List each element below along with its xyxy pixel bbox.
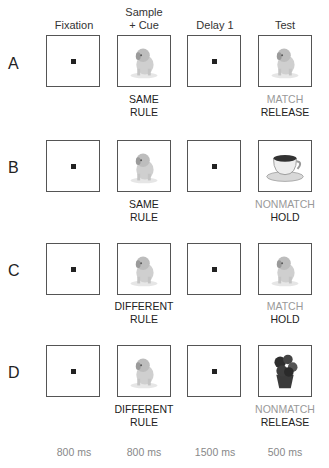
fixation-screen (46, 35, 100, 87)
cue-rule-type: SAME (99, 93, 189, 106)
test-label: MATCH HOLD (240, 300, 329, 326)
test-match-status: NONMATCH (240, 198, 329, 211)
test-response: HOLD (240, 211, 329, 224)
cue-rule-word: RULE (99, 416, 189, 429)
row-label-a: A (8, 55, 28, 73)
test-match-status: MATCH (240, 300, 329, 313)
fixation-screen (46, 140, 100, 192)
delay-screen (187, 345, 241, 397)
col-header-fixation: Fixation (34, 6, 114, 32)
fixation-point-icon (212, 59, 217, 64)
puppy-image (118, 244, 170, 294)
cue-rule-word: RULE (99, 313, 189, 326)
sample-screen (117, 243, 171, 295)
teacup-image (259, 141, 311, 191)
cue-rule-type: DIFFERENT (99, 300, 189, 313)
puppy-image (118, 346, 170, 396)
row-label-d: D (8, 364, 28, 382)
cue-label: DIFFERENT RULE (99, 300, 189, 326)
col-header-delay: Delay 1 (175, 6, 255, 32)
row-label-c: C (8, 262, 28, 280)
test-response: RELEASE (240, 416, 329, 429)
duration-fixation: 800 ms (34, 446, 114, 458)
col-header-test: Test (245, 6, 325, 32)
fixation-screen (46, 345, 100, 397)
puppy-image (118, 141, 170, 191)
duration-sample-cue: 800 ms (104, 446, 184, 458)
col-header-line1 (245, 6, 325, 19)
fixation-point-icon (212, 267, 217, 272)
test-screen (258, 243, 312, 295)
test-screen (258, 140, 312, 192)
sample-screen (117, 345, 171, 397)
fixation-point-icon (212, 369, 217, 374)
test-screen (258, 345, 312, 397)
test-response: HOLD (240, 313, 329, 326)
fixation-point-icon (71, 369, 76, 374)
test-match-status: MATCH (240, 93, 329, 106)
fixation-point-icon (212, 164, 217, 169)
test-label: NONMATCH RELEASE (240, 403, 329, 429)
col-header-line1 (34, 6, 114, 19)
col-header-line2: Test (245, 19, 325, 32)
puppy-image (118, 36, 170, 86)
test-match-status: NONMATCH (240, 403, 329, 416)
col-header-line2: Fixation (34, 19, 114, 32)
test-label: MATCH RELEASE (240, 93, 329, 119)
cue-label: DIFFERENT RULE (99, 403, 189, 429)
fixation-screen (46, 243, 100, 295)
test-label: NONMATCH HOLD (240, 198, 329, 224)
cue-rule-type: DIFFERENT (99, 403, 189, 416)
delay-screen (187, 140, 241, 192)
cue-label: SAME RULE (99, 198, 189, 224)
fixation-point-icon (71, 59, 76, 64)
duration-delay: 1500 ms (175, 446, 255, 458)
cue-rule-word: RULE (99, 211, 189, 224)
col-header-line2: Delay 1 (175, 19, 255, 32)
fixation-point-icon (71, 164, 76, 169)
delay-screen (187, 243, 241, 295)
test-response: RELEASE (240, 106, 329, 119)
potted-flower-image (259, 346, 311, 396)
cue-label: SAME RULE (99, 93, 189, 119)
col-header-sample-cue: Sample + Cue (104, 6, 184, 32)
delay-screen (187, 35, 241, 87)
puppy-image (259, 244, 311, 294)
duration-test: 500 ms (245, 446, 325, 458)
test-screen (258, 35, 312, 87)
puppy-image (259, 36, 311, 86)
sample-screen (117, 35, 171, 87)
col-header-line2: + Cue (104, 19, 184, 32)
sample-screen (117, 140, 171, 192)
col-header-line1: Sample (104, 6, 184, 19)
cue-rule-word: RULE (99, 106, 189, 119)
row-label-b: B (8, 159, 28, 177)
cue-rule-type: SAME (99, 198, 189, 211)
fixation-point-icon (71, 267, 76, 272)
col-header-line1 (175, 6, 255, 19)
